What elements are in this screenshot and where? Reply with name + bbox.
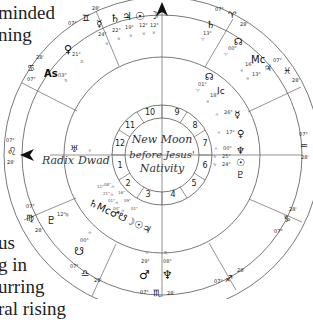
mercury-deg: 24° [98, 31, 107, 37]
saturn-deg: 22° [112, 27, 121, 33]
venus-icon: ♀ [64, 43, 72, 56]
gemini-glyph: ♊ [82, 13, 90, 23]
moon-sign: ♉ [152, 30, 156, 35]
mc-sign: ♓ [240, 68, 244, 73]
sun-deg: 12° [139, 22, 148, 28]
gemini-deg: 07° [68, 20, 77, 26]
mercury-dwad-deg: 26° [224, 109, 233, 115]
libra-deg: 07° [70, 263, 79, 269]
mercury-dwad-sign: ♒ [215, 112, 219, 117]
radix-label: Radix [41, 154, 75, 167]
scorpio-deg: 07° [140, 289, 149, 295]
neptune-icon: ♆ [162, 268, 173, 282]
cancer-min: 28' [36, 54, 44, 60]
uranus-icon: ♅ [70, 144, 78, 154]
house-4: 4 [170, 190, 175, 199]
house-10: 10 [145, 108, 155, 117]
aquarius-deg: 07° [299, 131, 308, 137]
house-1: 1 [117, 161, 122, 170]
saturn-r-deg: 13° [203, 30, 212, 36]
south-node-sign: ♎ [88, 230, 92, 235]
mars-icon: ♂ [139, 268, 150, 282]
center-line-1: New Moon [131, 133, 193, 146]
sag-deg: 07° [214, 278, 223, 284]
house-5: 5 [191, 179, 196, 188]
jupiter-dwad-sign: ♓ [246, 76, 250, 81]
aquarius-min: 28' [301, 154, 309, 160]
house-9: 9 [174, 108, 179, 117]
capricorn-min: 28' [289, 206, 297, 212]
cancer-glyph: ♋ [27, 63, 35, 73]
neptune-dwad-sign: ♒ [214, 146, 218, 151]
ascendant-icon: As [44, 68, 58, 79]
neptune-dwad-icon: ♆ [236, 145, 245, 156]
node-dwad-deg: 01° [198, 81, 207, 87]
uranus-sign: ♌ [88, 148, 92, 153]
south-node-icon: ☋ [74, 245, 84, 258]
neptune-deg: 08° [163, 258, 172, 264]
house-2: 2 [125, 179, 130, 188]
pisces-glyph: ♓ [283, 66, 291, 76]
aquarius-glyph: ♒ [300, 141, 308, 151]
sag-glyph: ♐ [225, 274, 233, 284]
pluto-dwad-deg: 24° [222, 161, 231, 167]
sun-dwad-deg: 25° [222, 153, 231, 159]
mercury-icon: ☿ [96, 18, 102, 29]
virgo-min: 28' [35, 227, 43, 233]
capricorn-glyph: ♑ [283, 214, 291, 224]
saturn-sign: ♉ [117, 36, 121, 41]
center-line-3: Nativity [139, 162, 185, 175]
leo-deg: 07° [6, 137, 15, 143]
south-node-deg: 00° [80, 237, 89, 243]
neptune-dwad-deg: 00° [223, 145, 232, 151]
house-3: 3 [145, 190, 150, 199]
jupiter-dwad-icon: ♃ [264, 63, 272, 73]
venus-sign: ♊ [80, 59, 84, 64]
node-dwad-sign: ♈ [196, 88, 200, 93]
center-line-2: before Jesus' [129, 149, 194, 160]
venus-dwad-sign: ♒ [217, 130, 221, 135]
leo-glyph: ♌ [7, 145, 17, 158]
jupiter-deg: 19° [125, 24, 134, 30]
pluto-icon: ♇ [46, 214, 56, 227]
svg-text:01°: 01° [131, 206, 138, 211]
pluto-dwad-icon: ♇ [236, 169, 245, 180]
house-8: 8 [192, 121, 197, 130]
ascendant-sign: ♋ [64, 78, 68, 83]
moon-icon: ☽ [149, 9, 159, 22]
moon-deg: 12° [150, 22, 159, 28]
mercury-dwad-icon: ☿ [234, 109, 240, 120]
sun-dwad-icon: ☉ [236, 157, 245, 168]
svg-text:♎: ♎ [110, 192, 114, 197]
venus-dwad-deg: 17° [226, 129, 235, 135]
pluto-dwad-sign: ♑ [213, 162, 217, 167]
mc-deg: 16° [245, 61, 254, 67]
virgo-deg: 07° [26, 203, 35, 209]
svg-text:04°: 04° [113, 206, 120, 211]
aries-deg: 07° [215, 6, 224, 12]
mars-deg: 29° [141, 258, 150, 264]
mercury-sign: ♉ [105, 41, 109, 46]
jupiter-sign: ♉ [129, 33, 133, 38]
cancer-deg: 07° [27, 76, 36, 82]
svg-text:♎: ♎ [121, 208, 125, 213]
venus-deg: 21° [72, 51, 81, 57]
ic-deg: 18° [210, 92, 219, 98]
sun-dwad-sign: ♑ [213, 154, 217, 159]
saturn-r-icon: ♄ [206, 19, 215, 30]
house-11: 11 [125, 121, 135, 130]
bg-line: ral rising [0, 298, 66, 320]
aries-min: 28' [240, 21, 248, 27]
pisces-deg: 07° [273, 57, 282, 63]
house-6: 6 [202, 161, 207, 170]
svg-text:♎: ♎ [115, 200, 119, 205]
north-node-sign: ♈ [224, 52, 228, 57]
svg-text:09°: 09° [124, 198, 131, 203]
jupiter-dwad-deg: 13° [252, 71, 261, 77]
svg-text:♎: ♎ [111, 184, 115, 189]
ic-sign: ♓ [206, 99, 210, 104]
capricorn-deg: 07° [274, 228, 283, 234]
pluto-sign: ♍ [65, 212, 69, 217]
mars-sign: ♎ [145, 250, 149, 255]
